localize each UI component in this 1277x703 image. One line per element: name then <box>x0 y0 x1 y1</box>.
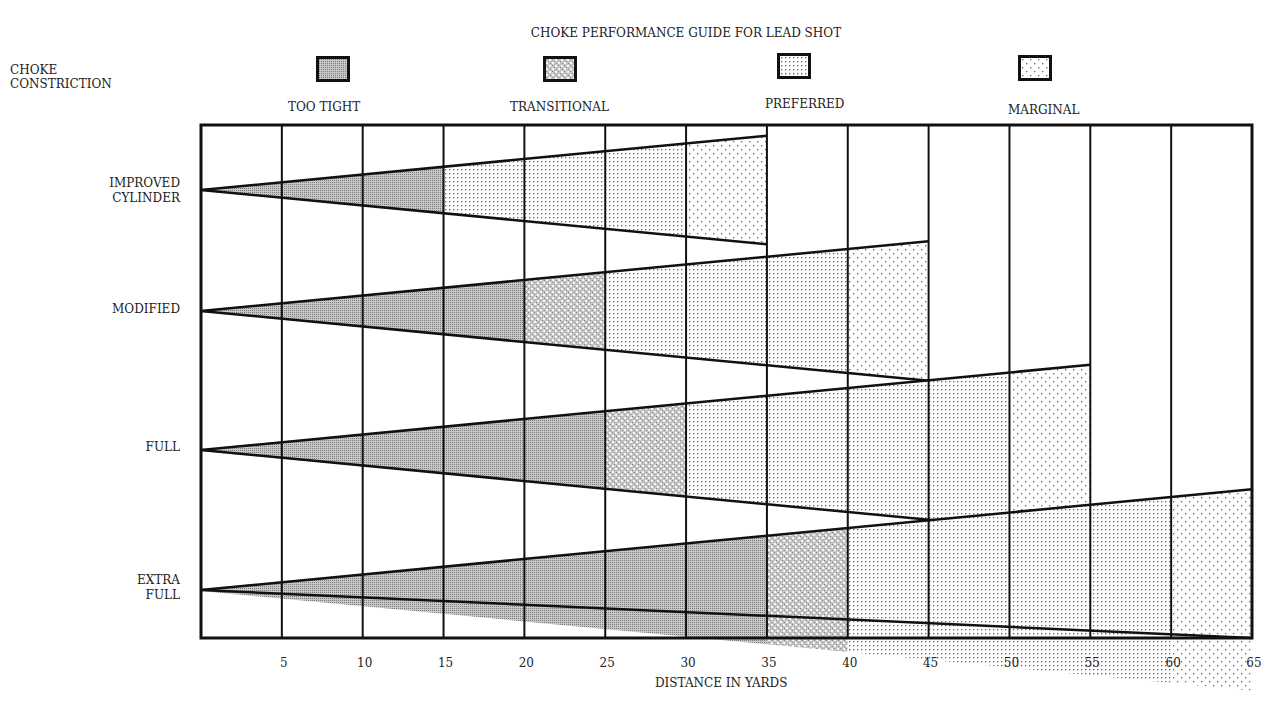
wedge-segment-marginal <box>848 241 929 381</box>
x-tick-label: 65 <box>1246 656 1261 670</box>
x-tick-label: 20 <box>519 656 534 670</box>
wedge-segment-marginal <box>1171 489 1252 691</box>
wedge-segment-transitional <box>605 404 686 497</box>
wedge-segment-marginal <box>686 136 767 245</box>
x-tick-label: 25 <box>600 656 615 670</box>
x-axis-title: DISTANCE IN YARDS <box>655 676 787 690</box>
wedge-segment-transitional <box>767 528 848 652</box>
x-tick-label: 55 <box>1085 656 1100 670</box>
x-tick-label: 35 <box>761 656 776 670</box>
x-tick-label: 30 <box>680 656 695 670</box>
x-tick-label: 10 <box>357 656 372 670</box>
wedge-segment-preferred <box>444 144 687 237</box>
x-tick-label: 5 <box>280 656 288 670</box>
x-tick-label: 40 <box>842 656 857 670</box>
wedge-segment-too_tight <box>201 167 444 214</box>
wedge-segment-too_tight <box>201 536 767 645</box>
x-tick-label: 15 <box>438 656 453 670</box>
wedge-segment-too_tight <box>201 411 605 489</box>
chart-plot-area <box>0 0 1277 703</box>
x-tick-label: 60 <box>1166 656 1181 670</box>
x-tick-label: 45 <box>923 656 938 670</box>
x-tick-label: 50 <box>1004 656 1019 670</box>
wedge-segment-transitional <box>524 272 605 350</box>
